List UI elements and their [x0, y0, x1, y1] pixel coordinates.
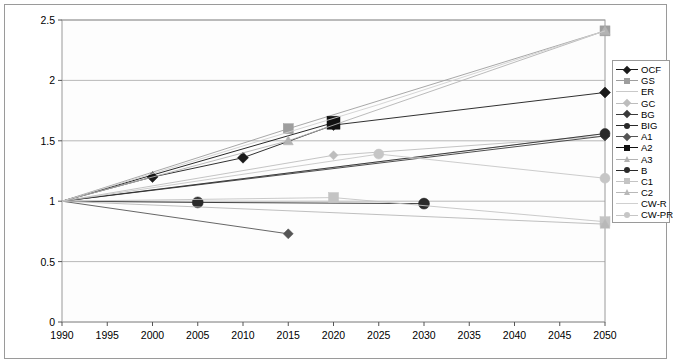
legend-item[interactable]: GC: [616, 98, 667, 109]
y-tick-label: 1: [49, 195, 55, 207]
legend-item[interactable]: C1: [616, 176, 667, 187]
x-tick-label: 2000: [141, 329, 165, 341]
data-point-marker: [600, 173, 610, 183]
legend-marker-icon: [616, 120, 638, 131]
x-tick-label: 2035: [458, 329, 482, 341]
data-point-marker: [600, 129, 610, 139]
legend-item[interactable]: A3: [616, 154, 667, 165]
legend-label: C2: [638, 187, 653, 198]
x-tick-label: 2050: [593, 329, 617, 341]
legend-marker-icon: [616, 86, 638, 97]
legend-label: B: [638, 165, 647, 176]
legend-label: GC: [638, 98, 655, 109]
plot-background: [62, 20, 605, 322]
legend-item[interactable]: A1: [616, 131, 667, 142]
chart-canvas: 00.511.522.51990199520002005201020152020…: [5, 5, 668, 360]
legend-marker-icon: [616, 109, 638, 120]
legend-marker-icon: [616, 98, 638, 109]
legend-item[interactable]: CW-R: [616, 198, 667, 209]
data-point-marker: [192, 197, 203, 208]
x-tick-label: 2015: [277, 329, 301, 341]
legend-item[interactable]: OCF: [616, 64, 667, 75]
legend-item[interactable]: ER: [616, 86, 667, 97]
y-tick-label: 2.5: [40, 14, 55, 26]
legend-label: OCF: [638, 64, 661, 75]
legend-marker-icon: [616, 75, 638, 86]
legend-item[interactable]: BIG: [616, 120, 667, 131]
data-point-marker: [374, 149, 384, 159]
x-tick-label: 2010: [231, 329, 255, 341]
legend-marker-icon: [616, 176, 638, 187]
legend-label: BG: [638, 109, 655, 120]
x-tick-label: 2045: [548, 329, 572, 341]
chart-frame: index (1990 = 1) 00.511.522.519901995200…: [4, 4, 667, 359]
x-tick-label: 1990: [50, 329, 74, 341]
legend-item[interactable]: B: [616, 165, 667, 176]
legend-label: GS: [638, 75, 655, 86]
legend-item[interactable]: BG: [616, 109, 667, 120]
legend-marker-icon: [616, 198, 638, 209]
legend-marker-icon: [616, 64, 638, 75]
data-point-marker: [419, 198, 430, 209]
y-tick-label: 0.5: [40, 256, 55, 268]
x-tick-label: 2040: [503, 329, 527, 341]
legend-item[interactable]: CW-PR: [616, 209, 667, 220]
legend-marker-icon: [616, 154, 638, 165]
legend-label: C1: [638, 176, 653, 187]
x-tick-label: 2025: [367, 329, 391, 341]
legend-marker-icon: [616, 131, 638, 142]
legend-marker-icon: [616, 165, 638, 176]
legend-item[interactable]: A2: [616, 142, 667, 153]
legend-label: A1: [638, 131, 653, 142]
legend-marker-icon: [616, 142, 638, 153]
data-point-marker: [329, 193, 339, 203]
legend-label: A2: [638, 142, 653, 153]
x-tick-label: 2005: [186, 329, 210, 341]
x-tick-label: 2030: [412, 329, 436, 341]
legend-label: BIG: [638, 120, 657, 131]
y-tick-label: 2: [49, 74, 55, 86]
x-tick-label: 2020: [322, 329, 346, 341]
legend-label: ER: [638, 86, 654, 97]
plot-area: 00.511.522.51990199520002005201020152020…: [5, 5, 668, 360]
legend-item[interactable]: C2: [616, 187, 667, 198]
x-tick-label: 1995: [96, 329, 120, 341]
legend-marker-icon: [616, 187, 638, 198]
legend-label: CW-PR: [638, 209, 673, 220]
legend-marker-icon: [616, 210, 638, 221]
chart-legend: OCF GS ER GC BG BIG: [612, 60, 670, 223]
legend-label: CW-R: [638, 198, 667, 209]
legend-item[interactable]: GS: [616, 75, 667, 86]
legend-label: A3: [638, 154, 653, 165]
y-tick-label: 0: [49, 316, 55, 328]
y-tick-label: 1.5: [40, 135, 55, 147]
